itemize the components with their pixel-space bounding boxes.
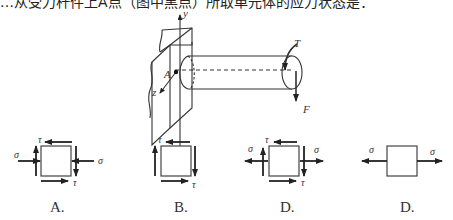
option-a-sigma-right: σ (98, 155, 104, 166)
option-a-element (18, 142, 94, 181)
option-a-tau-top: τ (38, 134, 42, 145)
option-a-sigma-left: σ (14, 149, 20, 160)
mechanics-diagram: y z A T F σ σ τ τ A. τ τ B. (0, 0, 453, 220)
option-c-sigma-left: σ (248, 143, 254, 154)
main-figure (149, 15, 302, 150)
option-c-sigma-right: σ (314, 144, 320, 155)
option-d-sigma-right: σ (430, 146, 436, 157)
option-b-element (155, 142, 195, 181)
option-c-element (245, 142, 323, 181)
point-a (174, 70, 178, 74)
force-label: F (302, 103, 310, 115)
option-b-tau-bottom: τ (192, 179, 196, 190)
shaft (175, 56, 302, 89)
option-b-tau-top: τ (158, 134, 162, 145)
y-axis-label: y (182, 7, 188, 19)
option-d-label[interactable]: D. (400, 199, 415, 215)
option-b-label[interactable]: B. (174, 199, 188, 215)
option-c-tau-bottom: τ (301, 177, 305, 188)
z-axis-label: z (151, 86, 157, 98)
option-a-tau-bottom: τ (73, 177, 77, 188)
option-c-tau-top: τ (265, 134, 269, 145)
option-a-label[interactable]: A. (50, 199, 65, 215)
option-d-sigma-left: σ (369, 144, 375, 155)
torque-label: T (294, 37, 301, 49)
option-c-label[interactable]: D. (280, 199, 295, 215)
point-a-label: A (163, 68, 171, 80)
